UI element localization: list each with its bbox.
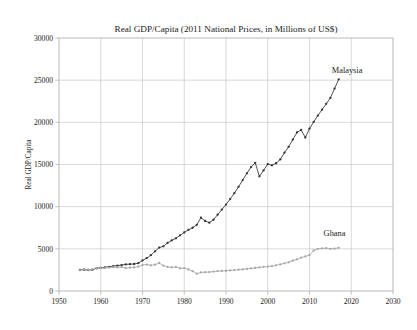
- chart-figure: 195019601970198019902000201020202030 050…: [0, 0, 417, 330]
- chart-title: Real GDP/Capita (2011 National Prices, i…: [115, 24, 338, 34]
- annotation-malaysia: Malaysia: [332, 66, 363, 75]
- gdp-per-capita-line-chart: 195019601970198019902000201020202030 050…: [0, 0, 417, 330]
- x-tick-label: 1950: [51, 297, 66, 306]
- x-axis-tick-labels: 195019601970198019902000201020202030: [51, 297, 400, 306]
- y-tick-label: 20000: [34, 118, 53, 127]
- x-tick-label: 1980: [177, 297, 192, 306]
- y-tick-label: 10000: [34, 202, 53, 211]
- x-tick-label: 2020: [344, 297, 359, 306]
- x-tick-label: 2000: [260, 297, 275, 306]
- y-tick-label: 5000: [38, 245, 53, 254]
- y-tick-label: 25000: [34, 76, 53, 85]
- y-tick-label: 15000: [34, 160, 53, 169]
- y-tick-label: 0: [49, 287, 53, 296]
- annotation-ghana: Ghana: [324, 229, 346, 238]
- x-tick-label: 2010: [302, 297, 317, 306]
- chart-background: [0, 0, 417, 330]
- y-tick-label: 30000: [34, 34, 53, 43]
- x-tick-label: 1990: [218, 297, 233, 306]
- x-tick-label: 2030: [385, 297, 400, 306]
- x-tick-label: 1960: [93, 297, 108, 306]
- x-tick-label: 1970: [135, 297, 150, 306]
- y-axis-title: Real GDP/Capita: [25, 139, 33, 190]
